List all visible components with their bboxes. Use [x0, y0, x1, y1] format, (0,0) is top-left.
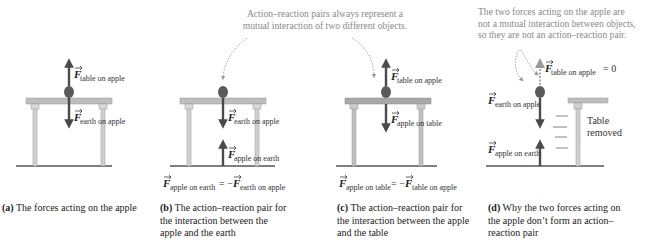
table-removed-label: removed: [587, 127, 622, 138]
table-removed-label: Table: [587, 115, 610, 126]
label-text: apple on table: [346, 183, 391, 192]
label-text: = −: [391, 178, 405, 189]
caption-a: (a) The forces acting on the apple: [2, 202, 162, 215]
label-text: apple on earth: [234, 154, 279, 163]
label-text: earth on apple: [234, 117, 280, 126]
table-leg: [576, 109, 580, 166]
force-subscript: earth on apple: [80, 117, 126, 126]
annotation-action-reaction-note: Action–reaction pairs always represent a…: [210, 8, 440, 31]
apple: [535, 86, 545, 98]
label-text: apple on earth: [170, 183, 215, 192]
panel-a-diagram: F table on apple F earth on apple: [16, 63, 126, 166]
caption-d: (d) Why the two forces acting on the app…: [488, 202, 648, 240]
table-leg-left: [352, 104, 356, 166]
table-leg-right: [419, 104, 423, 166]
panel-d-diagram: F table on apple = 0 F earth on apple F …: [486, 50, 622, 166]
label-text: earth on apple: [240, 183, 286, 192]
annotation-pointer-dotted: [352, 38, 374, 76]
annotation-not-pair-note: The two forces acting on the apple are n…: [478, 6, 648, 41]
annotation-pointer-dotted: [521, 50, 537, 74]
panel-c-diagram: F table on apple F apple on table F appl…: [336, 38, 457, 192]
caption-c: (c) The action–reaction pair for the int…: [337, 202, 497, 240]
annotation-pointer-dotted: [223, 38, 247, 78]
motion-lines: [553, 116, 568, 148]
force-subscript: table on apple: [80, 74, 125, 83]
apple: [381, 86, 391, 98]
apple: [64, 86, 74, 98]
apple: [218, 86, 228, 98]
table-top-partial: [568, 98, 608, 103]
label-text: apple on earth: [495, 149, 540, 158]
label-text: = −: [219, 178, 233, 189]
label-text: earth on apple: [495, 100, 541, 109]
panel-b-diagram: F earth on apple F apple on earth F appl…: [162, 38, 286, 192]
label-text: table on apple: [397, 76, 442, 85]
label-text: = 0: [603, 63, 616, 74]
annotation-pointer-dotted: [515, 50, 522, 80]
label-text: table on apple: [551, 68, 596, 77]
table-top: [345, 98, 431, 104]
label-text: apple on table: [397, 119, 442, 128]
table-leg-left: [187, 104, 191, 166]
caption-b: (b) The action–reaction pair for the int…: [160, 202, 320, 240]
table-leg-left: [33, 104, 37, 166]
label-text: table on apple: [412, 183, 457, 192]
table-leg-right: [101, 104, 105, 166]
